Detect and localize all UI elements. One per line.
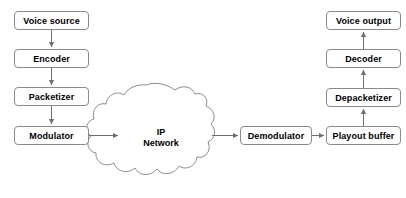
ip-network-label-line1: IP [128,127,194,138]
node-depacketizer-label: Depacketizer [335,93,392,103]
node-voice-source-label: Voice source [23,16,80,26]
node-decoder[interactable]: Decoder [326,49,401,68]
node-decoder-label: Decoder [345,54,382,64]
node-packetizer[interactable]: Packetizer [14,87,89,106]
node-playout-buffer-label: Playout buffer [333,131,395,141]
ip-network-label: IP Network [128,127,194,149]
node-demodulator-label: Demodulator [248,131,305,141]
node-packetizer-label: Packetizer [29,92,75,102]
node-encoder-label: Encoder [33,54,70,64]
node-playout-buffer[interactable]: Playout buffer [326,126,401,145]
diagram-canvas: Voice source Encoder Packetizer Modulato… [0,0,406,198]
node-modulator-label: Modulator [29,131,73,141]
node-voice-output-label: Voice output [336,16,391,26]
node-demodulator[interactable]: Demodulator [240,126,312,145]
node-modulator[interactable]: Modulator [14,126,89,145]
node-voice-output[interactable]: Voice output [326,11,401,30]
node-voice-source[interactable]: Voice source [14,11,89,30]
node-encoder[interactable]: Encoder [14,49,89,68]
node-depacketizer[interactable]: Depacketizer [326,88,401,107]
ip-network-label-line2: Network [128,138,194,149]
